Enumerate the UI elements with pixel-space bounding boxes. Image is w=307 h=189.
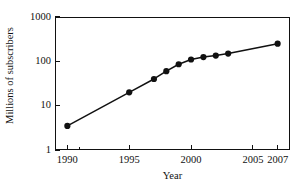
data-point (275, 41, 281, 47)
series-markers (64, 41, 280, 129)
x-tick-label: 1995 (109, 155, 149, 166)
x-tick-label: 2000 (171, 155, 211, 166)
x-tick-label: 1990 (47, 155, 87, 166)
data-point (225, 50, 231, 56)
x-axis-label: Year (55, 170, 290, 181)
data-point (151, 76, 157, 82)
data-point (213, 52, 219, 58)
y-axis-label: Millions of subscribers (4, 27, 15, 124)
cellphone-subscribers-chart: 1101001000 19901995200020052007 Millions… (0, 0, 307, 189)
data-point (200, 54, 206, 60)
data-point (126, 89, 132, 95)
data-point (163, 68, 169, 74)
data-point (188, 56, 194, 62)
x-tick-label: 2005 (233, 155, 273, 166)
y-axis-label-wrap: Millions of subscribers (0, 0, 18, 150)
data-series (55, 17, 290, 150)
data-point (64, 123, 70, 129)
data-point (176, 61, 182, 67)
series-line (67, 44, 277, 126)
x-tick-label: 2007 (258, 155, 298, 166)
